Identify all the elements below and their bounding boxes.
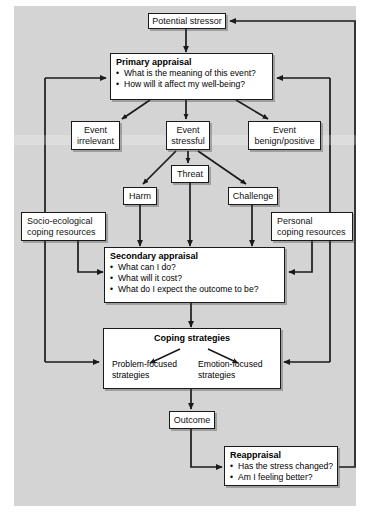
event-stressful-line2: stressful	[171, 136, 205, 147]
coping-branch-arrows	[104, 329, 282, 390]
reappraisal-bullet-2: Am I feeling better?	[230, 472, 332, 483]
event-stressful-line1: Event	[176, 125, 199, 136]
challenge-label: Challenge	[233, 191, 274, 202]
secondary-appraisal-bullet-2: What will it cost?	[110, 273, 279, 284]
primary-appraisal-bullets: What is the meaning of this event? How w…	[116, 68, 267, 90]
primary-appraisal-bullet-2: How will it affect my well-being?	[116, 79, 267, 90]
primary-appraisal-bullet-1: What is the meaning of this event?	[116, 68, 267, 79]
node-threat[interactable]: Threat	[171, 165, 209, 183]
node-challenge[interactable]: Challenge	[228, 187, 278, 205]
personal-resources-line2: coping resources	[277, 227, 346, 238]
edge-primary-to-irrelevant	[122, 100, 150, 119]
potential-stressor-label: Potential stressor	[152, 16, 222, 27]
event-benign-line1: Event	[273, 125, 296, 136]
node-coping-strategies[interactable]: Coping strategies Problem-focused strate…	[103, 328, 281, 389]
node-harm[interactable]: Harm	[123, 187, 157, 205]
node-potential-stressor[interactable]: Potential stressor	[148, 13, 226, 29]
diagram-page: Potential stressor Primary appraisal Wha…	[0, 0, 370, 517]
secondary-appraisal-bullet-3: What do I expect the outcome to be?	[110, 284, 279, 295]
primary-appraisal-heading: Primary appraisal	[116, 57, 267, 68]
node-event-irrelevant[interactable]: Event irrelevant	[71, 121, 120, 150]
harm-label: Harm	[129, 191, 151, 202]
event-benign-line2: benign/positive	[254, 136, 314, 147]
node-primary-appraisal[interactable]: Primary appraisal What is the meaning of…	[110, 53, 273, 100]
node-event-stressful[interactable]: Event stressful	[166, 121, 210, 150]
reappraisal-bullet-1: Has the stress changed?	[230, 461, 332, 472]
node-reappraisal[interactable]: Reappraisal Has the stress changed? Am I…	[224, 446, 338, 486]
edge-personal-to-secondary	[289, 241, 312, 272]
node-secondary-appraisal[interactable]: Secondary appraisal What can I do? What …	[104, 247, 285, 303]
threat-label: Threat	[177, 169, 203, 180]
secondary-appraisal-bullets: What can I do? What will it cost? What d…	[110, 262, 279, 296]
node-outcome[interactable]: Outcome	[169, 411, 215, 429]
event-irrelevant-line1: Event	[84, 125, 107, 136]
outcome-label: Outcome	[174, 415, 211, 426]
edge-primary-to-benign	[236, 100, 268, 119]
personal-resources-line1: Personal	[277, 216, 313, 227]
node-socio-ecological-coping-resources[interactable]: Socio-ecological coping resources	[21, 212, 106, 241]
socio-ecological-line1: Socio-ecological	[27, 216, 93, 227]
node-event-benign-positive[interactable]: Event benign/positive	[248, 121, 321, 150]
reappraisal-heading: Reappraisal	[230, 450, 332, 461]
socio-ecological-line2: coping resources	[27, 227, 96, 238]
event-irrelevant-line2: irrelevant	[77, 136, 114, 147]
secondary-appraisal-heading: Secondary appraisal	[110, 251, 279, 262]
node-personal-coping-resources[interactable]: Personal coping resources	[271, 212, 353, 241]
edge-socio-to-secondary	[78, 241, 103, 272]
edge-outcome-to-reappraisal	[191, 429, 222, 467]
secondary-appraisal-bullet-1: What can I do?	[110, 262, 279, 273]
reappraisal-bullets: Has the stress changed? Am I feeling bet…	[230, 461, 332, 483]
